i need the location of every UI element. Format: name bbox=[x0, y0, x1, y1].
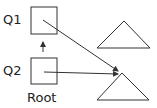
upper-triangle bbox=[97, 21, 150, 48]
diagram-canvas bbox=[0, 0, 157, 108]
lower-triangle bbox=[97, 73, 149, 100]
q2-pointer-arrow bbox=[44, 72, 118, 74]
q1-pointer-arrow bbox=[43, 20, 118, 71]
q2-box bbox=[31, 58, 57, 84]
